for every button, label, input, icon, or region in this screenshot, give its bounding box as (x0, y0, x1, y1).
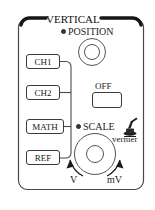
led-indicator-icon (76, 124, 81, 129)
title-bar-left (21, 18, 46, 25)
math-button[interactable]: MATH (26, 119, 64, 134)
scale-range-mv-label: mV (107, 175, 122, 185)
position-knob-center[interactable] (84, 44, 100, 60)
math-button-label: MATH (27, 122, 63, 132)
ch1-button-label: CH1 (27, 57, 59, 67)
panel-title: VERTICAL (46, 14, 100, 25)
ch2-button-label: CH2 (27, 88, 59, 98)
ref-button[interactable]: REF (26, 150, 60, 165)
button-bus-lines (60, 62, 71, 159)
off-button[interactable] (92, 92, 122, 108)
scale-knob-center[interactable] (86, 145, 104, 163)
off-button-label: OFF (95, 82, 112, 91)
scale-label: SCALE (83, 122, 115, 132)
title-bar-right (101, 18, 141, 25)
ref-button-label: REF (27, 153, 59, 163)
ch1-button[interactable]: CH1 (26, 54, 60, 69)
position-label: POSITION (68, 27, 114, 37)
vertical-control-panel: VERTICAL POSITION CH1 CH2 MATH REF OFF S… (0, 0, 155, 210)
scale-range-v-label: V (70, 175, 77, 185)
led-indicator-icon (61, 29, 66, 34)
ch2-button[interactable]: CH2 (26, 85, 60, 100)
vernier-label: vernier (112, 135, 137, 144)
